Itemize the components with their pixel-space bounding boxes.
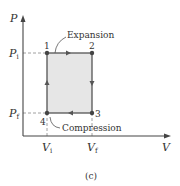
compression-leader-line xyxy=(50,117,60,128)
pv-diagram: P V Pi Pf Vi Vf 1 2 3 4 Expansion Compre… xyxy=(0,0,180,186)
expansion-leader-line xyxy=(55,37,66,53)
point-4-label: 4 xyxy=(40,117,46,127)
compression-label: Compression xyxy=(62,123,122,133)
v-final-label: Vf xyxy=(87,141,99,155)
point-2-label: 2 xyxy=(89,41,95,51)
p-initial-label: Pi xyxy=(8,47,19,61)
point-2 xyxy=(90,51,94,55)
y-axis-arrow-icon xyxy=(21,15,26,22)
point-1-label: 1 xyxy=(44,41,50,51)
x-axis-label: V xyxy=(162,141,171,154)
x-axis-arrow-icon xyxy=(164,134,171,139)
point-3-label: 3 xyxy=(95,109,101,119)
p-final-label: Pf xyxy=(8,107,20,121)
v-initial-label: Vi xyxy=(42,141,53,155)
point-1 xyxy=(45,51,49,55)
cycle-region xyxy=(47,53,92,113)
expansion-label: Expansion xyxy=(67,30,114,40)
point-4 xyxy=(45,111,49,115)
y-axis-label: P xyxy=(9,12,18,25)
point-3 xyxy=(90,111,94,115)
figure-caption: (c) xyxy=(85,171,97,181)
